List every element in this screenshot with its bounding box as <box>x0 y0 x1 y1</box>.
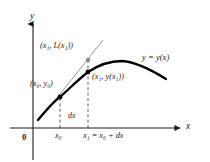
point-x0-y0-marker <box>58 95 63 100</box>
origin-label: 0 <box>22 133 26 142</box>
label-point-x1-yx1: (x₁, y(x₁)) <box>92 73 124 81</box>
curve-y-of-x <box>38 61 166 120</box>
tick-label-x1: x₁ = x₀ + dx <box>83 132 123 140</box>
point-x1-yx1-marker <box>86 70 91 75</box>
linearization-diagram: y x 0 (x₁, L(x₁)) (x₀, y₀) (x₁, y(x₁)) y… <box>0 0 210 162</box>
label-curve-equation: y = y(x) <box>142 53 169 62</box>
label-point-x0-y0: (x₀, y₀) <box>30 80 53 88</box>
y-axis-label: y <box>30 12 34 22</box>
label-dx: dx <box>68 112 75 120</box>
tick-label-x0: x₀ <box>55 132 62 140</box>
label-point-x1-Lx1: (x₁, L(x₁)) <box>40 42 73 50</box>
point-x1-Lx1-marker <box>86 58 90 62</box>
x-axis-label: x <box>186 122 190 132</box>
